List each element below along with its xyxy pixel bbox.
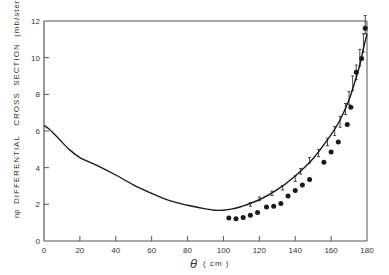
filled-data-point [226,216,231,221]
x-tick-label: 40 [111,246,120,255]
x-tick-label: 140 [289,246,303,255]
x-tick-label: 80 [183,246,192,255]
x-tick-label: 60 [147,246,156,255]
x-axis-label-unit: ( cm ) [203,259,229,268]
y-axis-label-prefix: np [12,210,21,218]
filled-data-point [264,205,269,210]
filled-data-point [336,140,341,145]
filled-data-point [271,204,276,209]
filled-data-point [363,26,368,31]
filled-data-point [248,213,253,218]
filled-data-point [286,194,291,199]
theory-curve [44,34,367,211]
y-tick-label: 8 [36,90,41,99]
filled-data-point [354,70,359,75]
filled-data-point [345,122,350,127]
axes: 020406080100120140160180024681012 [31,17,374,255]
y-tick-label: 4 [36,164,41,173]
y-axis-label: DIFFERENTIAL CROSS SECTION (mb/ster.) [12,0,21,204]
x-tick-label: 120 [253,246,267,255]
filled-data-point [255,210,260,215]
x-axis-label-symbol: θ [190,256,197,271]
error-bar-point [364,16,367,34]
y-tick-label: 10 [31,54,40,63]
y-tick-label: 2 [36,200,41,209]
filled-data-point [321,160,326,165]
filled-data-point [359,56,364,61]
filled-data-point [300,183,305,188]
filled-data-point [348,105,353,110]
cross-section-chart: 020406080100120140160180024681012 θ ( cm… [0,0,389,275]
x-tick-label: 160 [324,246,338,255]
x-tick-label: 20 [75,246,84,255]
y-tick-label: 12 [31,17,40,26]
filled-data-point [278,201,283,206]
y-tick-label: 0 [36,237,41,246]
plot-area: 020406080100120140160180024681012 θ ( cm… [0,0,389,275]
x-tick-label: 0 [42,246,47,255]
error-bar-point [351,76,354,91]
filled-data-point [293,188,298,193]
x-tick-label: 180 [360,246,374,255]
filled-data-point [241,215,246,220]
y-tick-label: 6 [36,127,41,136]
filled-data-point [234,216,239,221]
data-series [44,16,368,222]
x-tick-label: 100 [217,246,231,255]
filled-data-point [307,177,312,182]
filled-data-point [329,150,334,155]
